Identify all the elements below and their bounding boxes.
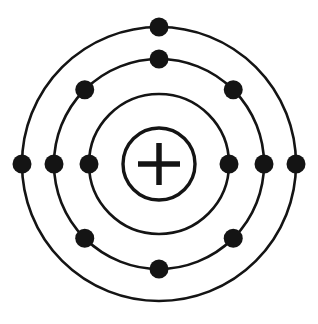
electron-shell3-2 xyxy=(13,155,32,174)
electron-shell2-3 xyxy=(45,155,64,174)
electron-shell2-1 xyxy=(150,50,169,69)
electron-shell2-2 xyxy=(75,80,94,99)
electron-shell1-2 xyxy=(220,155,239,174)
electron-shell3-1 xyxy=(150,18,169,37)
bohr-atom-svg xyxy=(0,0,318,324)
electron-shell1-1 xyxy=(80,155,99,174)
electron-shell2-8 xyxy=(224,80,243,99)
electron-shell2-5 xyxy=(150,260,169,279)
electron-shell2-6 xyxy=(224,229,243,248)
atom-diagram-canvas xyxy=(0,0,318,324)
nucleus xyxy=(123,128,195,200)
electron-shell3-3 xyxy=(287,155,306,174)
electron-shell2-7 xyxy=(255,155,274,174)
electron-shell2-4 xyxy=(75,229,94,248)
